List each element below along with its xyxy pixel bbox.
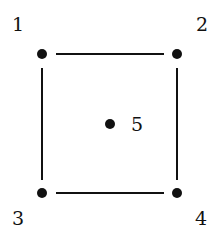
- node-1-label: 1: [12, 13, 24, 35]
- node-1-dot: [37, 49, 47, 59]
- node-2-label: 2: [196, 13, 208, 35]
- nodes: [37, 49, 182, 198]
- node-3-label: 3: [12, 207, 24, 229]
- graph-diagram: 1 2 3 4 5: [0, 0, 219, 237]
- node-5-dot: [105, 119, 115, 129]
- node-4-dot: [172, 188, 182, 198]
- node-3-dot: [37, 188, 47, 198]
- node-2-dot: [172, 49, 182, 59]
- node-4-label: 4: [195, 207, 207, 229]
- node-5-label: 5: [131, 113, 143, 135]
